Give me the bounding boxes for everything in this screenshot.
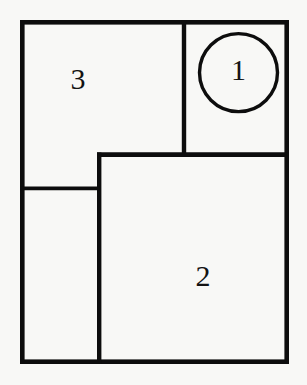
region-diagram: 3 1 2 [0, 0, 307, 385]
diagram-background [0, 0, 307, 385]
region-label-2: 2 [196, 259, 211, 292]
region-label-1: 1 [231, 53, 246, 86]
diagram-canvas: 3 1 2 [0, 0, 307, 385]
region-label-3: 3 [71, 62, 86, 95]
